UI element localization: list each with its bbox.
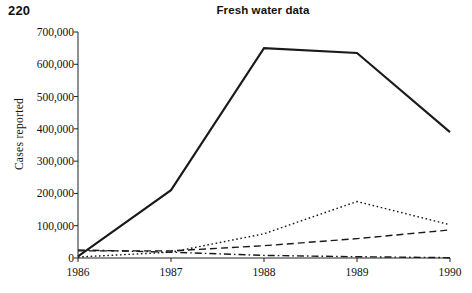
y-tick-label: 500,000 <box>0 91 74 103</box>
y-tick-label: 0 <box>0 252 74 264</box>
x-tick-label: 1988 <box>234 266 294 278</box>
y-tick-label: 600,000 <box>0 58 74 70</box>
x-tick-label: 1986 <box>48 266 108 278</box>
series-line-dashed <box>78 230 450 251</box>
y-tick-label: 300,000 <box>0 155 74 167</box>
series-line-dotted <box>78 202 450 258</box>
figure-page: 220 Fresh water data Cases reported 0100… <box>0 0 472 293</box>
y-tick-label: 700,000 <box>0 26 74 38</box>
y-tick-label: 400,000 <box>0 123 74 135</box>
y-tick-label: 200,000 <box>0 187 74 199</box>
x-tick-label: 1990 <box>420 266 472 278</box>
y-tick-label: 100,000 <box>0 220 74 232</box>
x-tick-label: 1987 <box>141 266 201 278</box>
chart-plot-area: Cases reported 0100,000200,000300,000400… <box>0 0 472 293</box>
y-axis-tick-labels: 0100,000200,000300,000400,000500,000600,… <box>0 0 74 293</box>
series-line-solid <box>78 48 450 256</box>
x-tick-label: 1989 <box>327 266 387 278</box>
